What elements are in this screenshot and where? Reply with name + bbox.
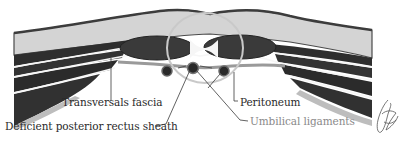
posterior-sheath-line bbox=[118, 62, 285, 68]
label-umbilical-ligaments: Umbilical ligaments bbox=[250, 115, 355, 127]
anatomy-figure: Transversals fascia Deficient posterior … bbox=[0, 0, 408, 150]
leader-peritoneum bbox=[234, 72, 238, 101]
left-umbilical-ligament-nodule bbox=[162, 66, 172, 76]
label-transversals-fascia: Transversals fascia bbox=[62, 96, 162, 108]
left-rectus-muscle bbox=[120, 36, 194, 60]
right-umbilical-ligament-nodule bbox=[219, 66, 229, 76]
artist-signature bbox=[377, 100, 398, 132]
label-deficient-posterior-rectus-sheath: Deficient posterior rectus sheath bbox=[5, 120, 178, 132]
label-peritoneum: Peritoneum bbox=[240, 96, 300, 108]
